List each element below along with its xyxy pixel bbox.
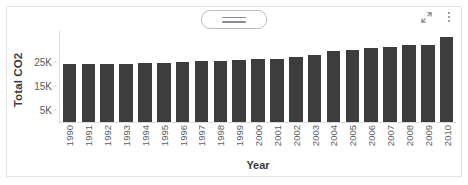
x-tick: 1997 xyxy=(192,124,211,160)
bar-cell[interactable] xyxy=(60,31,79,122)
x-tick: 2003 xyxy=(305,124,324,160)
x-tick-label: 1990 xyxy=(64,125,75,146)
y-axis-ticks: 5K15K25K xyxy=(27,31,57,123)
bar[interactable] xyxy=(214,61,228,122)
x-tick: 2001 xyxy=(267,124,286,160)
x-tick-label: 1995 xyxy=(158,125,169,146)
chart-frame: Total CO2 5K15K25K 199019911992199319941… xyxy=(6,6,462,177)
bar[interactable] xyxy=(119,64,133,122)
bar[interactable] xyxy=(421,45,435,122)
bar[interactable] xyxy=(440,37,454,122)
x-tick: 1995 xyxy=(154,124,173,160)
x-tick-label: 1992 xyxy=(102,125,113,146)
x-tick: 1994 xyxy=(135,124,154,160)
y-tick-mark xyxy=(53,62,57,63)
x-tick-label: 2010 xyxy=(441,125,452,146)
bar-series xyxy=(60,31,456,122)
bar[interactable] xyxy=(82,64,96,122)
bar-cell[interactable] xyxy=(117,31,136,122)
chart-toolbar xyxy=(7,7,461,33)
bar-cell[interactable] xyxy=(249,31,268,122)
bar-cell[interactable] xyxy=(267,31,286,122)
x-tick-label: 1993 xyxy=(121,125,132,146)
x-tick-label: 2004 xyxy=(328,125,339,146)
bar-cell[interactable] xyxy=(437,31,456,122)
bar-cell[interactable] xyxy=(305,31,324,122)
x-axis-title: Year xyxy=(60,159,456,171)
bar[interactable] xyxy=(383,47,397,122)
bar[interactable] xyxy=(402,45,416,122)
bar[interactable] xyxy=(195,61,209,122)
y-tick-label: 5K xyxy=(40,105,52,116)
plot-area: Total CO2 5K15K25K 199019911992199319941… xyxy=(7,31,461,176)
bar[interactable] xyxy=(251,59,265,122)
kebab-dots xyxy=(448,12,450,22)
bar-cell[interactable] xyxy=(154,31,173,122)
bar-cell[interactable] xyxy=(324,31,343,122)
bar-cell[interactable] xyxy=(135,31,154,122)
bar[interactable] xyxy=(63,64,77,122)
chart-menu-button[interactable] xyxy=(201,10,267,29)
chart-widget: Total CO2 5K15K25K 199019911992199319941… xyxy=(0,0,468,185)
bar-cell[interactable] xyxy=(192,31,211,122)
bar[interactable] xyxy=(308,55,322,122)
bar[interactable] xyxy=(327,51,341,122)
bar-cell[interactable] xyxy=(211,31,230,122)
bar[interactable] xyxy=(176,62,190,122)
x-tick-label: 2000 xyxy=(253,125,264,146)
bar-cell[interactable] xyxy=(343,31,362,122)
kebab-menu-icon[interactable] xyxy=(442,9,456,25)
bar-cell[interactable] xyxy=(286,31,305,122)
bar-cell[interactable] xyxy=(418,31,437,122)
y-tick-mark xyxy=(53,86,57,87)
x-axis-line xyxy=(59,122,456,123)
x-tick: 1998 xyxy=(211,124,230,160)
y-axis-title: Total CO2 xyxy=(9,39,27,121)
expand-arrows-icon[interactable] xyxy=(419,9,433,25)
bar[interactable] xyxy=(157,63,171,122)
x-tick: 1993 xyxy=(117,124,136,160)
x-tick-label: 1999 xyxy=(234,125,245,146)
x-tick: 1996 xyxy=(173,124,192,160)
bar-cell[interactable] xyxy=(173,31,192,122)
bar[interactable] xyxy=(289,57,303,122)
x-tick: 2008 xyxy=(399,124,418,160)
bar-cell[interactable] xyxy=(98,31,117,122)
bar[interactable] xyxy=(100,64,114,122)
toolbar-actions xyxy=(419,9,456,25)
x-tick-label: 2005 xyxy=(347,125,358,146)
x-tick: 1990 xyxy=(60,124,79,160)
x-tick: 1992 xyxy=(98,124,117,160)
bar-cell[interactable] xyxy=(230,31,249,122)
x-tick: 2005 xyxy=(343,124,362,160)
x-tick-label: 2009 xyxy=(422,125,433,146)
x-tick: 2007 xyxy=(381,124,400,160)
x-tick: 2006 xyxy=(362,124,381,160)
bar-cell[interactable] xyxy=(381,31,400,122)
x-tick-label: 2006 xyxy=(366,125,377,146)
y-tick-label: 25K xyxy=(34,57,52,68)
bar-cell[interactable] xyxy=(79,31,98,122)
bar-cell[interactable] xyxy=(362,31,381,122)
x-tick-label: 2007 xyxy=(385,125,396,146)
bar[interactable] xyxy=(346,50,360,122)
x-tick-label: 2008 xyxy=(403,125,414,146)
x-tick-label: 2003 xyxy=(309,125,320,146)
bar[interactable] xyxy=(364,48,378,122)
bar[interactable] xyxy=(270,59,284,122)
bar-cell[interactable] xyxy=(399,31,418,122)
bar[interactable] xyxy=(138,63,152,122)
x-tick: 2004 xyxy=(324,124,343,160)
y-tick-label: 15K xyxy=(34,81,52,92)
x-tick-label: 1996 xyxy=(177,125,188,146)
y-axis-title-text: Total CO2 xyxy=(12,53,24,107)
x-tick: 2002 xyxy=(286,124,305,160)
x-tick: 1991 xyxy=(79,124,98,160)
bar[interactable] xyxy=(232,60,246,122)
x-tick: 1999 xyxy=(230,124,249,160)
x-tick: 2000 xyxy=(249,124,268,160)
x-tick-label: 1994 xyxy=(139,125,150,146)
x-tick-label: 2002 xyxy=(290,125,301,146)
x-tick: 2010 xyxy=(437,124,456,160)
x-tick-label: 2001 xyxy=(271,125,282,146)
